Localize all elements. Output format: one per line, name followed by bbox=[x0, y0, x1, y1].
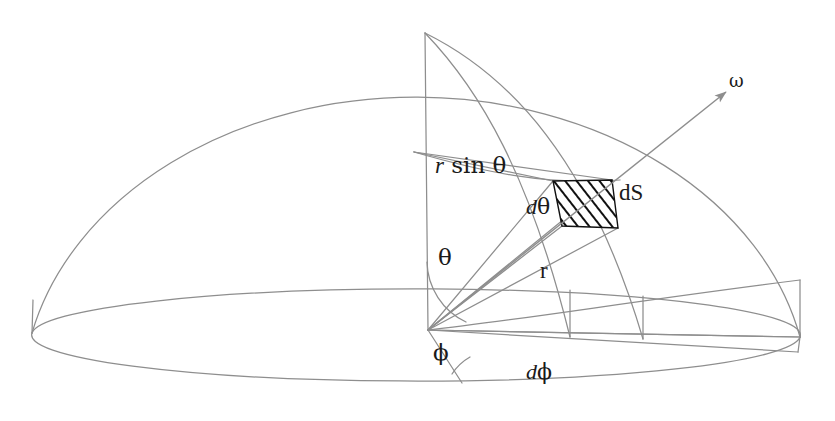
label-theta: θ bbox=[438, 246, 452, 269]
hemisphere-solid-angle-diagram bbox=[0, 0, 835, 421]
label-d-phi: dϕ bbox=[526, 361, 552, 383]
base-ellipse-front bbox=[32, 333, 800, 381]
parallel-arc-lower-back bbox=[428, 280, 800, 330]
label-r-sin-theta-italic: r bbox=[435, 153, 444, 178]
label-d-theta: dθ bbox=[526, 196, 550, 218]
label-omega: ω bbox=[729, 72, 744, 90]
label-d-theta-italic: d bbox=[526, 194, 537, 219]
polar-axis bbox=[425, 33, 428, 330]
base-ellipse-back bbox=[32, 289, 800, 337]
dome-silhouette bbox=[32, 97, 800, 337]
label-r: r bbox=[540, 259, 548, 282]
omega-direction-arrow bbox=[428, 92, 726, 330]
label-phi: ϕ bbox=[433, 341, 449, 364]
figure-canvas: r sin θ dθ dS θ r ϕ dϕ ω bbox=[0, 0, 835, 421]
label-r-sin-theta-upright: sin θ bbox=[444, 152, 506, 178]
label-dS: dS bbox=[619, 181, 643, 204]
label-r-sin-theta: r sin θ bbox=[435, 154, 506, 177]
label-d-phi-symbol: ϕ bbox=[537, 359, 552, 384]
ray-to-patch-bottom-right bbox=[428, 228, 618, 330]
label-d-theta-symbol: θ bbox=[537, 194, 550, 219]
label-d-phi-italic: d bbox=[526, 359, 537, 384]
